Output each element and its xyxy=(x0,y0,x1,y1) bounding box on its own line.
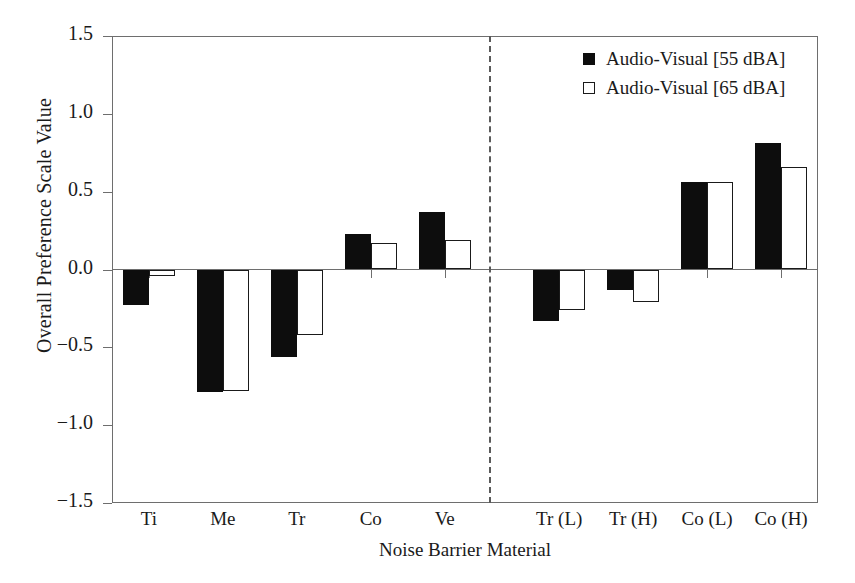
x-tick-mark xyxy=(445,270,446,278)
y-tick-mark xyxy=(103,425,112,426)
x-tick-mark xyxy=(781,270,782,278)
bar xyxy=(755,143,781,269)
x-axis-label: Noise Barrier Material xyxy=(112,539,818,561)
bar xyxy=(781,167,807,270)
y-tick-mark xyxy=(103,270,112,271)
y-tick-label: 1.5 xyxy=(68,22,93,45)
x-tick-label: Tr (H) xyxy=(609,508,657,530)
bar xyxy=(297,270,323,335)
y-tick-mark xyxy=(103,114,112,115)
bar xyxy=(633,270,659,303)
legend-label: Audio-Visual [55 dBA] xyxy=(606,48,785,70)
bar xyxy=(149,270,175,276)
bar xyxy=(707,182,733,269)
x-tick-label: Co xyxy=(360,508,382,530)
section-divider xyxy=(489,36,491,503)
x-tick-label: Me xyxy=(210,508,235,530)
legend-item: Audio-Visual [55 dBA] xyxy=(583,44,807,73)
bar xyxy=(607,270,633,290)
y-tick-mark xyxy=(103,503,112,504)
legend: Audio-Visual [55 dBA] Audio-Visual [65 d… xyxy=(583,44,807,102)
x-tick-label: Tr (L) xyxy=(536,508,582,530)
x-tick-label: Tr xyxy=(288,508,305,530)
bar-chart: Overall Preference Scale Value 1.51.00.5… xyxy=(0,0,855,583)
y-tick-label: −1.5 xyxy=(57,489,93,512)
bar xyxy=(419,212,445,270)
bar xyxy=(533,270,559,321)
x-tick-label: Ti xyxy=(141,508,157,530)
legend-swatch-filled-icon xyxy=(583,53,595,65)
legend-swatch-open-icon xyxy=(583,82,595,94)
bar xyxy=(345,234,371,270)
x-tick-label: Co (L) xyxy=(682,508,733,530)
y-tick-mark xyxy=(103,192,112,193)
bar xyxy=(445,240,471,270)
y-axis-label: Overall Preference Scale Value xyxy=(33,6,56,446)
y-tick-label: 1.0 xyxy=(68,100,93,123)
bar xyxy=(371,243,397,269)
y-tick-label: 0.5 xyxy=(68,178,93,201)
bar xyxy=(271,270,297,357)
y-tick-label: 0.0 xyxy=(68,256,93,279)
legend-label: Audio-Visual [65 dBA] xyxy=(606,77,785,99)
x-tick-label: Co (H) xyxy=(754,508,807,530)
bar xyxy=(197,270,223,393)
x-tick-mark xyxy=(371,270,372,278)
x-tick-mark xyxy=(707,270,708,278)
y-tick-mark xyxy=(103,347,112,348)
y-tick-label: −1.0 xyxy=(57,411,93,434)
x-tick-label: Ve xyxy=(435,508,455,530)
bar xyxy=(559,270,585,310)
y-tick-label: −0.5 xyxy=(57,333,93,356)
legend-item: Audio-Visual [65 dBA] xyxy=(583,73,807,102)
bar xyxy=(123,270,149,306)
bar xyxy=(223,270,249,391)
bar xyxy=(681,182,707,269)
y-tick-mark xyxy=(103,36,112,37)
